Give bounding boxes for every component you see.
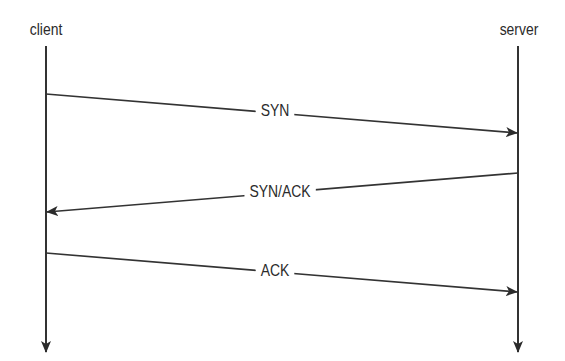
sequence-diagram-canvas <box>0 0 565 361</box>
client-participant-label: client <box>30 21 63 39</box>
syn-ack-message-label: SYN/ACK <box>244 183 315 201</box>
syn-message-label: SYN <box>256 102 295 120</box>
server-participant-label: server <box>500 21 539 39</box>
ack-message-label: ACK <box>256 262 295 280</box>
